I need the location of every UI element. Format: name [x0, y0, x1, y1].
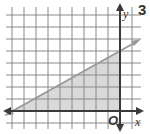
x-axis-arrow-right [136, 107, 144, 115]
origin-label: O [108, 113, 118, 128]
y-axis-label: y [123, 7, 128, 22]
x-axis-label: x [135, 115, 140, 130]
problem-number: 3 [138, 1, 146, 18]
